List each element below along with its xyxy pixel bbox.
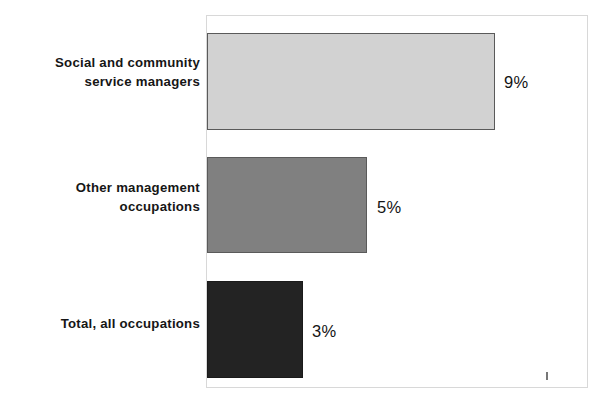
category-label-social-and-community-service-managers: Social and community service managers (10, 53, 200, 91)
category-label-line: Social and community (10, 53, 200, 72)
scan-artifact-mark (546, 372, 548, 380)
value-label-total-all-occupations: 3% (312, 322, 336, 341)
category-label-line: occupations (10, 197, 200, 216)
bar-other-management-occupations (207, 157, 367, 253)
category-label-line: Other management (10, 178, 200, 197)
value-label-social-and-community-service-managers: 9% (504, 73, 528, 92)
category-label-line: Total, all occupations (10, 314, 200, 333)
bar-social-and-community-service-managers (207, 33, 495, 130)
category-label-other-management-occupations: Other management occupations (10, 178, 200, 216)
bar-total-all-occupations (207, 281, 303, 378)
category-label-total-all-occupations: Total, all occupations (10, 314, 200, 333)
category-label-line: service managers (10, 72, 200, 91)
value-label-other-management-occupations: 5% (377, 198, 401, 217)
chart-screenshot: Social and community service managers Ot… (0, 0, 612, 401)
